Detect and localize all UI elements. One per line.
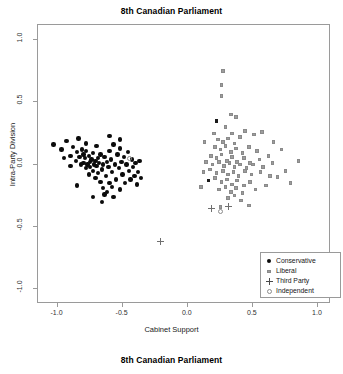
- data-point-conservative: [98, 180, 102, 184]
- data-point-conservative: [111, 195, 115, 199]
- data-point-liberal: [267, 154, 271, 158]
- x-axis-tick-label: -0.5: [102, 309, 142, 316]
- data-point-liberal: [216, 138, 220, 142]
- data-point-conservative: [110, 185, 114, 189]
- data-point-conservative: [135, 182, 139, 186]
- data-point-third-party: [157, 238, 164, 245]
- data-point-liberal: [209, 154, 213, 158]
- data-point-liberal: [203, 140, 207, 144]
- data-point-liberal: [272, 140, 276, 144]
- data-point-conservative: [75, 150, 79, 154]
- chart-legend: Conservative Liberal Third Party Indepen…: [260, 252, 341, 298]
- data-point-liberal: [221, 169, 225, 173]
- data-point-conservative: [119, 160, 123, 164]
- data-point-conservative: [87, 172, 91, 176]
- data-point-liberal: [221, 69, 225, 73]
- data-point-liberal: [261, 165, 265, 169]
- square-icon: [265, 266, 276, 276]
- data-point-conservative: [104, 174, 108, 178]
- data-point-conservative: [123, 181, 127, 185]
- data-point-liberal: [252, 133, 256, 137]
- data-point-liberal: [219, 148, 223, 152]
- data-point-conservative: [126, 150, 130, 154]
- data-point-conservative: [75, 183, 79, 187]
- data-point-liberal: [222, 164, 226, 168]
- data-point-liberal: [250, 173, 254, 177]
- data-point-liberal: [224, 144, 228, 148]
- data-point-liberal: [247, 145, 251, 149]
- data-point-liberal: [219, 205, 223, 209]
- data-point-liberal: [241, 191, 245, 195]
- x-axis-tick: [317, 303, 318, 307]
- data-point-liberal: [248, 180, 252, 184]
- data-point-liberal: [217, 160, 221, 164]
- y-axis-tick-label: 0.0: [16, 151, 23, 173]
- data-point-independent: [127, 156, 132, 161]
- data-point-conservative: [62, 156, 66, 160]
- y-axis-tick-label: -0.5: [16, 213, 23, 235]
- data-point-conservative: [96, 171, 100, 175]
- data-point-liberal: [243, 169, 247, 173]
- data-point-conservative: [51, 142, 55, 146]
- data-point-conservative: [91, 195, 95, 199]
- data-point-liberal: [255, 149, 259, 153]
- data-point-liberal: [235, 179, 239, 183]
- data-point-liberal: [260, 130, 264, 134]
- data-point-conservative: [93, 176, 97, 180]
- data-point-conservative: [118, 146, 122, 150]
- y-axis-tick-label: -1.0: [16, 276, 23, 298]
- y-axis-tick: [33, 101, 37, 102]
- legend-label: Independent: [276, 286, 314, 296]
- data-point-liberal: [215, 171, 219, 175]
- data-point-liberal: [234, 186, 238, 190]
- data-point-conservative: [127, 169, 131, 173]
- data-point-liberal: [289, 181, 293, 185]
- y-axis-tick: [33, 288, 37, 289]
- x-axis-label: Cabinet Support: [0, 325, 343, 334]
- data-point-liberal: [258, 158, 262, 162]
- x-axis-tick-label: 0.5: [232, 309, 272, 316]
- legend-item-liberal: Liberal: [265, 266, 340, 276]
- data-point-liberal: [238, 135, 242, 139]
- open-circle-icon: [265, 286, 276, 296]
- data-point-liberal: [208, 168, 212, 172]
- data-point-liberal: [229, 150, 233, 154]
- data-point-liberal: [207, 179, 211, 183]
- data-point-liberal: [242, 156, 246, 160]
- legend-label: Liberal: [276, 266, 296, 276]
- x-axis-tick-label: 0.0: [167, 309, 207, 316]
- x-axis-tick: [57, 303, 58, 307]
- data-point-conservative: [96, 156, 100, 160]
- data-point-liberal: [268, 174, 272, 178]
- data-point-liberal: [226, 137, 230, 141]
- x-axis-tick: [122, 303, 123, 307]
- data-point-liberal: [212, 132, 216, 136]
- data-point-conservative: [76, 136, 80, 140]
- data-point-conservative: [111, 142, 115, 146]
- data-point-conservative: [136, 170, 140, 174]
- data-point-liberal: [230, 132, 234, 136]
- data-point-liberal: [232, 170, 236, 174]
- data-point-conservative: [122, 155, 126, 159]
- data-point-conservative: [109, 157, 113, 161]
- data-point-liberal: [239, 199, 243, 203]
- data-point-liberal: [233, 165, 237, 169]
- data-point-liberal: [220, 83, 224, 87]
- data-point-conservative: [132, 174, 136, 178]
- plus-icon: [265, 276, 276, 286]
- data-point-liberal: [242, 184, 246, 188]
- data-point-liberal: [226, 196, 230, 200]
- data-point-conservative: [107, 134, 111, 138]
- data-point-conservative: [128, 177, 132, 181]
- data-point-liberal: [229, 113, 233, 117]
- data-point-conservative: [84, 149, 88, 153]
- data-point-conservative: [100, 200, 104, 204]
- y-axis-tick: [33, 39, 37, 40]
- data-point-liberal: [224, 185, 228, 189]
- legend-label: Third Party: [276, 276, 309, 286]
- data-point-liberal: [202, 170, 206, 174]
- data-point-conservative: [110, 170, 114, 174]
- data-point-conservative: [102, 192, 106, 196]
- data-point-conservative: [68, 154, 72, 158]
- data-point-liberal: [247, 204, 251, 208]
